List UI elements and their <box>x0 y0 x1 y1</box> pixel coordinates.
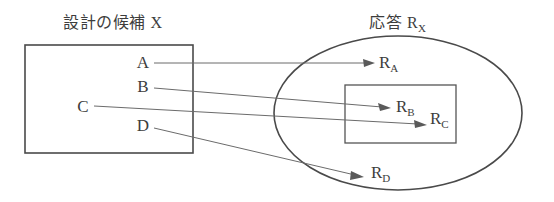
response-label-ra: RA <box>379 53 398 74</box>
response-label-rb: RB <box>396 97 415 118</box>
right-group-title-subscript: X <box>418 22 426 34</box>
connector-a-to-ra <box>154 59 375 67</box>
node-label-a: A <box>137 53 150 72</box>
diagram-svg: 設計の候補 X A B C D 応答 RX RA RB RC RD <box>0 0 554 202</box>
left-group-title: 設計の候補 X <box>63 14 162 31</box>
left-group: 設計の候補 X A B C D <box>25 14 193 153</box>
right-group: 応答 RX RA RB RC RD <box>274 14 522 190</box>
connector-d-to-rd <box>154 128 364 180</box>
arrow-head-b <box>378 103 391 111</box>
node-label-b: B <box>137 77 148 96</box>
diagram-canvas: 設計の候補 X A B C D 応答 RX RA RB RC RD <box>0 0 554 202</box>
arrow-head-c <box>414 120 427 128</box>
connector-line-b <box>154 88 382 107</box>
candidate-set-rectangle <box>25 45 193 153</box>
node-label-c: C <box>77 97 88 116</box>
connector-b-to-rb <box>154 88 391 111</box>
response-label-rd: RD <box>371 163 390 184</box>
right-group-title-main: 応答 R <box>369 14 418 31</box>
connector-line-d <box>154 128 355 175</box>
node-label-d: D <box>137 116 149 135</box>
response-label-rc: RC <box>430 109 449 130</box>
arrow-head-a <box>363 59 375 67</box>
right-group-title: 応答 RX <box>369 14 426 34</box>
arrow-head-d <box>350 171 364 180</box>
